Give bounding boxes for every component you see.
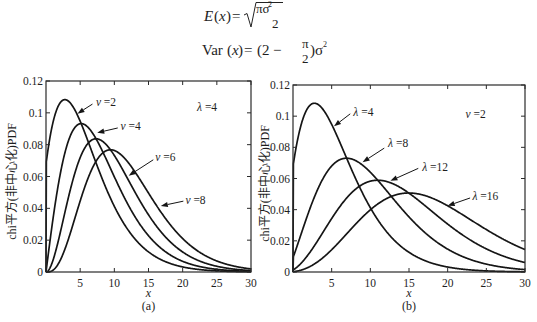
y-tick-label: 0 xyxy=(284,266,290,278)
y-tick-label: 0.06 xyxy=(23,171,43,183)
x-tick-label: 20 xyxy=(177,277,189,289)
mean-formula-numerator-exponent: 2 xyxy=(268,0,272,9)
mean-formula-E: E xyxy=(203,8,213,24)
y-tick-label: 0.1 xyxy=(29,107,44,119)
y-tick-label: 0.1 xyxy=(276,110,291,122)
x-tick-label: 5 xyxy=(77,277,83,289)
variance-formula-var: Var xyxy=(202,42,223,58)
variance-formula-two: (2 xyxy=(257,42,270,59)
x-tick-label: 25 xyxy=(211,277,223,289)
x-tick-label: 30 xyxy=(519,277,531,289)
series-label-a-0-value: =2 xyxy=(101,96,116,108)
y-tick-label: 0.12 xyxy=(270,79,290,91)
series-label-a-2-value: =6 xyxy=(160,151,175,163)
parameter-note: v =2 xyxy=(465,108,485,120)
variance-formula-rparen: ) xyxy=(238,42,243,59)
series-label-b-1-value: =8 xyxy=(393,137,408,149)
panel-caption: (a) xyxy=(142,299,155,313)
series-label-a-0: v =2 xyxy=(96,96,116,108)
series-label-b-0-value: =4 xyxy=(358,106,373,118)
x-tick-label: 10 xyxy=(365,277,377,289)
y-tick-label: 0.04 xyxy=(270,204,290,216)
series-label-a-1: v =4 xyxy=(120,120,140,132)
mean-formula-x: x xyxy=(218,8,226,24)
parameter-note-value: =4 xyxy=(202,101,217,113)
y-tick-label: 0.04 xyxy=(23,202,43,214)
y-tick-label: 0.06 xyxy=(270,173,290,185)
parameter-note-value: =2 xyxy=(471,108,486,120)
x-tick-label: 5 xyxy=(329,277,335,289)
y-tick-label: 0.02 xyxy=(270,235,290,247)
mean-formula-rparen: ) xyxy=(226,8,231,25)
y-axis-label: chi平方(非中心化)PDF xyxy=(257,125,272,242)
y-tick-label: 0.02 xyxy=(23,234,43,246)
series-label-a-1-value: =4 xyxy=(126,120,141,132)
series-label-b-0: λ =4 xyxy=(352,106,373,118)
x-axis-label: x xyxy=(145,286,152,300)
variance-formula-exponent: 2 xyxy=(323,40,327,49)
variance-formula-equals: = xyxy=(244,42,252,58)
series-label-a-3-value: =8 xyxy=(191,194,206,206)
parameter-note: λ =4 xyxy=(196,101,217,113)
x-tick-label: 20 xyxy=(442,277,454,289)
series-label-b-3: λ =16 xyxy=(471,190,498,202)
y-axis-label: chi平方(非中心化)PDF xyxy=(4,123,19,240)
variance-formula-denominator: 2 xyxy=(302,51,309,66)
y-tick-label: 0.08 xyxy=(23,139,43,151)
panel-caption: (b) xyxy=(402,299,416,313)
y-tick-label: 0.12 xyxy=(23,75,43,87)
x-tick-label: 30 xyxy=(245,277,257,289)
series-label-b-1: λ =8 xyxy=(387,137,408,149)
x-tick-label: 25 xyxy=(481,277,493,289)
series-label-b-2-value: =12 xyxy=(427,161,448,173)
figure: E ( x ) = πσ 2 2 Var ( x ) = (2 − π 2 )σ… xyxy=(0,0,537,322)
x-tick-label: 10 xyxy=(109,277,121,289)
x-axis-label: x xyxy=(405,286,412,300)
mean-formula-equals: = xyxy=(232,8,240,24)
series-label-a-2: v =6 xyxy=(155,151,175,163)
series-label-b-3-value: =16 xyxy=(477,190,498,202)
y-tick-label: 0 xyxy=(37,266,43,278)
variance-formula-sigma: )σ xyxy=(310,42,323,59)
variance-formula-numerator: π xyxy=(302,36,309,51)
mean-formula-denominator: 2 xyxy=(272,16,279,31)
series-label-b-2: λ =12 xyxy=(421,161,448,173)
series-label-a-3: v =8 xyxy=(185,194,205,206)
variance-formula-minus: − xyxy=(273,42,281,58)
y-tick-label: 0.08 xyxy=(270,141,290,153)
